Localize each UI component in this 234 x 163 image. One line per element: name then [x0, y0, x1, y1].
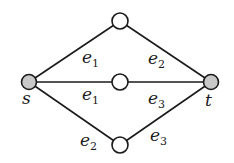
node-label-t: t	[205, 90, 212, 110]
node-top	[112, 13, 128, 29]
edge-label: e2	[80, 130, 97, 153]
edge-s-bot	[29, 82, 120, 145]
edge-top-t	[120, 21, 211, 82]
edge-label: e3	[148, 88, 165, 111]
node-t	[204, 75, 219, 90]
edge-label: e2	[148, 48, 165, 71]
node-bot	[112, 137, 128, 153]
edge-label: e1	[82, 47, 99, 70]
edge-s-top	[29, 21, 120, 82]
node-mid	[112, 74, 128, 90]
nodes-group	[22, 13, 219, 153]
edge-label: e3	[150, 125, 167, 148]
edge-label: e1	[82, 84, 99, 107]
node-label-s: s	[22, 88, 31, 108]
graph-diagram: e1e2e1e3e2e3st	[0, 0, 234, 163]
